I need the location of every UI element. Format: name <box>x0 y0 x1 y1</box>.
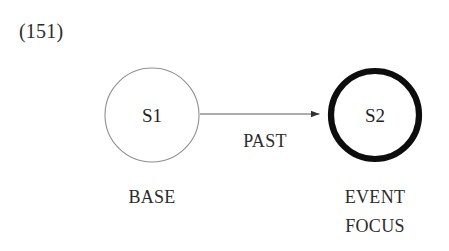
edge-label-past: PAST <box>243 131 287 151</box>
node-s2-caption-line-1: EVENT <box>345 183 405 212</box>
node-s1-caption: BASE <box>128 183 175 212</box>
node-s2-label: S2 <box>365 106 385 125</box>
mental-spaces-diagram: (151) S1 S2 PAST BASE EVENT FOCUS <box>0 0 449 251</box>
node-s1-caption-line-1: BASE <box>128 183 175 212</box>
node-s2-caption-line-2: FOCUS <box>345 212 405 241</box>
node-s2-caption: EVENT FOCUS <box>345 183 405 241</box>
node-s1-label: S1 <box>142 106 162 125</box>
